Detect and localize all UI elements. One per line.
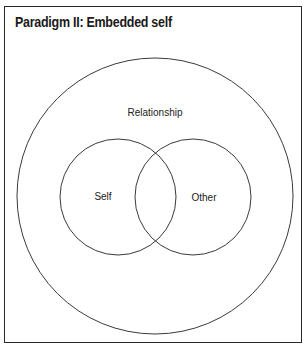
venn-diagram: Relationship Self Other — [0, 0, 306, 351]
self-circle — [60, 139, 176, 255]
other-label: Other — [191, 192, 217, 203]
self-label: Self — [94, 191, 111, 202]
relationship-label: Relationship — [127, 107, 182, 118]
relationship-circle — [17, 58, 293, 334]
